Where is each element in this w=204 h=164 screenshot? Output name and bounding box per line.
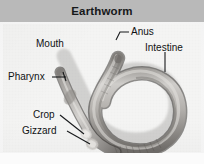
page-title: Earthworm — [71, 0, 132, 22]
label-anus: Anus — [131, 26, 154, 37]
photo-bottom-strip — [0, 153, 204, 164]
label-gizzard: Gizzard — [22, 125, 56, 136]
label-intestine: Intestine — [145, 42, 183, 53]
label-mouth: Mouth — [36, 38, 64, 49]
figure-header: Earthworm — [0, 0, 204, 22]
earthworm-figure: Earthworm — [0, 0, 204, 164]
anus-structure — [114, 55, 121, 63]
label-pharynx: Pharynx — [8, 71, 45, 82]
label-crop: Crop — [33, 109, 55, 120]
